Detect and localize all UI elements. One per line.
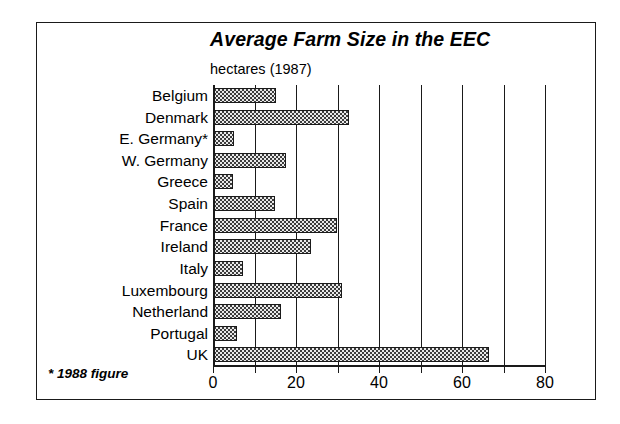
x-axis-tick [296, 366, 297, 373]
bar-row [213, 193, 545, 214]
bar-row [213, 171, 545, 192]
category-label: Spain [18, 193, 208, 214]
bar-row [213, 128, 545, 149]
bar-row [213, 150, 545, 171]
x-axis-tick-label: 80 [525, 374, 565, 392]
chart-title: Average Farm Size in the EEC [210, 28, 570, 51]
bar-row [213, 258, 545, 279]
bar [213, 153, 286, 168]
x-axis-tick [213, 366, 214, 373]
x-axis-tick-label: 20 [276, 374, 316, 392]
bar [213, 304, 281, 319]
x-axis-tick-label: 60 [442, 374, 482, 392]
bar-row [213, 280, 545, 301]
category-label: UK [18, 344, 208, 365]
bar [213, 196, 275, 211]
bar-row [213, 301, 545, 322]
category-axis-line [213, 85, 215, 366]
x-axis-tick [379, 366, 380, 373]
category-label: E. Germany* [18, 128, 208, 149]
bar [213, 110, 349, 125]
x-axis-tick [338, 366, 339, 373]
bar [213, 261, 243, 276]
category-label: Denmark [18, 107, 208, 128]
bar-row [213, 344, 545, 365]
gridline [545, 85, 546, 366]
category-label: Netherland [18, 301, 208, 322]
category-label: W. Germany [18, 150, 208, 171]
bar [213, 347, 489, 362]
x-axis-tick [462, 366, 463, 373]
x-axis-tick [255, 366, 256, 373]
x-axis-tick-label: 0 [193, 374, 233, 392]
bar [213, 88, 276, 103]
category-label: Portugal [18, 323, 208, 344]
bar-row [213, 107, 545, 128]
chart-figure: Average Farm Size in the EEC hectares (1… [0, 0, 620, 424]
bar [213, 131, 234, 146]
category-label: Ireland [18, 236, 208, 257]
category-label: France [18, 215, 208, 236]
bar-row [213, 236, 545, 257]
x-axis-tick [504, 366, 505, 373]
bar-row [213, 215, 545, 236]
bar [213, 283, 342, 298]
plot-area [213, 85, 545, 366]
bar-row [213, 85, 545, 106]
x-axis-tick-label: 40 [359, 374, 399, 392]
category-axis-labels: BelgiumDenmarkE. Germany*W. GermanyGreec… [18, 85, 208, 366]
category-label: Belgium [18, 85, 208, 106]
category-label: Luxembourg [18, 280, 208, 301]
bar [213, 239, 311, 254]
chart-subtitle: hectares (1987) [210, 61, 312, 77]
x-axis-tick [421, 366, 422, 373]
x-axis-tick [545, 366, 546, 373]
bar [213, 218, 337, 233]
bar [213, 174, 233, 189]
bar-row [213, 323, 545, 344]
bar [213, 326, 237, 341]
category-label: Italy [18, 258, 208, 279]
chart-footnote: * 1988 figure [48, 366, 128, 381]
category-label: Greece [18, 171, 208, 192]
